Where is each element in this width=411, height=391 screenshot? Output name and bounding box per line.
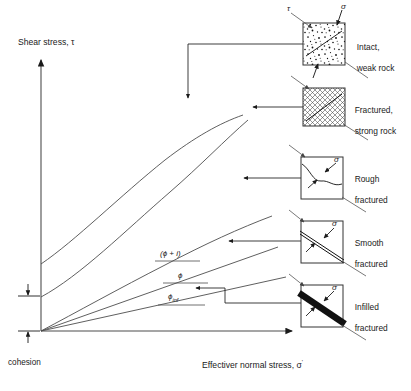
curve-fractured-strong-rock: [41, 120, 248, 297]
angle-label-phi: ϕ: [178, 271, 182, 281]
inset-sigma-symbol-infilled: σ: [332, 283, 337, 293]
y-axis-label: Shear stress, τ: [18, 37, 74, 47]
leader-infilled-fractured: [196, 288, 301, 303]
inset-caption-rough-fractured: Rough fractured: [350, 163, 388, 205]
envelope-curves: [41, 115, 286, 331]
angle-label-phi-inf: ϕinf: [168, 292, 178, 305]
inset-caption-intact-weak-rock: Intact, weak rock: [352, 31, 394, 73]
inset-sigma-symbol-intact: σ: [341, 2, 346, 12]
leader-intact-weak-rock: [188, 44, 303, 98]
x-axis-label: Effectiver normal stress, σ': [202, 357, 303, 370]
inset-sigma-symbol-rough: σ: [334, 155, 339, 165]
inset-caption-infilled-fractured: Infilled fractured: [350, 291, 388, 333]
leader-lines: [188, 44, 303, 303]
inset-caption-smooth-fractured: Smooth fractured: [350, 227, 388, 269]
load-arrow-rough: [289, 145, 305, 157]
figure-root: Shear stress, τ Effectiver normal stress…: [0, 0, 411, 391]
cohesion-label: cohesion: [8, 358, 41, 368]
angle-label-phi-plus-i: (ϕ + i): [160, 249, 181, 259]
load-arrow-fractured: [291, 76, 309, 89]
angle-tick-lines: [155, 261, 208, 305]
tau-symbol: τ: [71, 37, 74, 47]
load-arrow-infilled: [289, 274, 304, 286]
tau-arrow-intact: [291, 13, 312, 28]
reaction-arrow-intact: [313, 64, 318, 78]
inset-tau-symbol-intact: τ: [287, 4, 290, 14]
cohesion-dimension: [18, 284, 40, 343]
inset-caption-fractured-strong-rock: Fractured, strong rock: [350, 94, 396, 136]
curve-infilled-fractured: [41, 277, 286, 331]
inset-sigma-symbol-smooth: σ: [332, 219, 337, 229]
prime-symbol: ': [302, 359, 303, 365]
load-arrow-smooth: [289, 210, 304, 222]
curve-smooth-fractured: [41, 247, 278, 331]
